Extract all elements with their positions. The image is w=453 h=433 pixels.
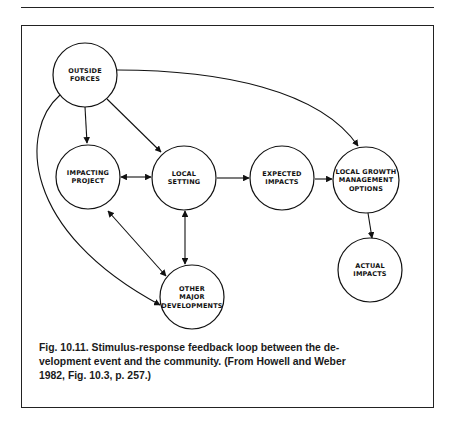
node-label: OTHER	[179, 285, 205, 293]
node-label: LOCAL	[172, 170, 196, 178]
node-label: IMPACTS	[265, 178, 298, 186]
node-label: FORCES	[70, 75, 100, 83]
node-label: IMPACTS	[353, 270, 386, 278]
node-actual-impacts: ACTUALIMPACTS	[338, 238, 402, 302]
figure-caption: Fig. 10.11. Stimulus-response feedback l…	[39, 341, 399, 383]
caption-line-3: 1982, Fig. 10.3, p. 257.)	[39, 369, 399, 383]
caption-line-1: Fig. 10.11. Stimulus-response feedback l…	[39, 341, 399, 355]
node-label: DEVELOPMENTS	[161, 302, 222, 310]
node-label: ACTUAL	[355, 262, 385, 270]
edge-outside-to-growth-options	[117, 70, 358, 146]
diagram-nodes: OUTSIDEFORCESIMPACTINGPROJECTLOCALSETTIN…	[53, 43, 402, 329]
node-label: IMPACTING	[67, 169, 109, 177]
node-outside-forces: OUTSIDEFORCES	[53, 43, 117, 107]
node-label: PROJECT	[72, 177, 105, 185]
edge-outside-to-local-setting	[107, 99, 161, 152]
node-label: SETTING	[168, 178, 201, 186]
node-other-major-developments: OTHERMAJORDEVELOPMENTS	[160, 265, 224, 329]
node-label: LOCAL GROWTH	[336, 168, 397, 176]
node-local-setting: LOCALSETTING	[152, 146, 216, 210]
node-local-growth-management-options: LOCAL GROWTHMANAGEMENTOPTIONS	[333, 147, 399, 213]
node-label: MAJOR	[179, 293, 204, 301]
node-impacting-project: IMPACTINGPROJECT	[56, 145, 120, 209]
edge-outside-to-impacting	[85, 107, 87, 143]
edge-impacting-other-developments	[108, 211, 166, 276]
edge-growth-options-to-actual	[368, 213, 372, 238]
node-label: MANAGEMENT	[339, 176, 394, 184]
node-label: EXPECTED	[262, 170, 302, 178]
node-expected-impacts: EXPECTEDIMPACTS	[250, 146, 314, 210]
node-label: OUTSIDE	[68, 67, 102, 75]
node-label: OPTIONS	[349, 185, 383, 193]
caption-line-2: velopment event and the community. (From…	[39, 355, 399, 369]
